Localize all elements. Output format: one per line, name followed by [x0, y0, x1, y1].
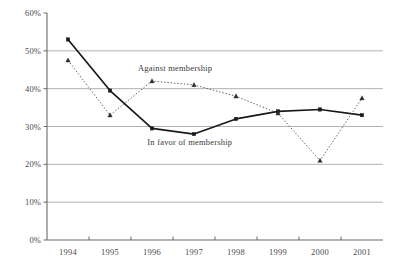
data-point-in-favor-2000	[318, 108, 321, 111]
series-line-in-favor	[68, 39, 362, 134]
x-axis-label-1998: 1998	[227, 247, 245, 257]
data-point-in-favor-1994	[66, 38, 69, 41]
x-axis-label-2001: 2001	[353, 247, 371, 257]
y-axis-label-10: 10%	[25, 197, 41, 207]
y-axis-label-40: 40%	[25, 84, 41, 94]
data-point-in-favor-2001	[360, 113, 363, 116]
data-point-against-1997	[192, 82, 196, 86]
y-axis-label-20: 20%	[25, 159, 41, 169]
x-axis-label-1994: 1994	[59, 247, 78, 257]
x-axis-label-1996: 1996	[143, 247, 161, 257]
data-point-in-favor-1995	[108, 89, 111, 92]
y-axis-label-50: 50%	[25, 46, 41, 56]
line-chart: 0%10%20%30%40%50%60% 1994199519961997199…	[0, 0, 394, 273]
y-axis-label-0: 0%	[29, 235, 41, 245]
x-axis-label-1997: 1997	[185, 247, 203, 257]
series-annotations-group: Against membershipIn favor of membership	[138, 63, 232, 146]
y-tick-labels-group: 0%10%20%30%40%50%60%	[25, 8, 41, 245]
data-point-in-favor-1996	[150, 127, 153, 130]
y-axis-label-30: 30%	[25, 122, 41, 132]
series-annotation-in-favor-of-membership: In favor of membership	[147, 137, 232, 147]
data-point-against-2000	[318, 158, 322, 162]
x-axis-label-1999: 1999	[269, 247, 287, 257]
x-tick-labels-group: 19941995199619971998199920002001	[59, 247, 371, 257]
data-point-in-favor-1997	[192, 132, 195, 135]
data-point-against-1994	[66, 58, 70, 62]
data-point-against-2001	[360, 96, 364, 100]
data-point-against-1996	[150, 79, 154, 83]
data-point-against-1998	[234, 94, 238, 98]
data-point-in-favor-1998	[234, 117, 237, 120]
series-annotation-against-membership: Against membership	[138, 63, 212, 73]
x-axis-label-2000: 2000	[311, 247, 329, 257]
chart-container: 0%10%20%30%40%50%60% 1994199519961997199…	[0, 0, 394, 273]
y-axis-label-60: 60%	[25, 8, 41, 18]
x-axis-label-1995: 1995	[101, 247, 119, 257]
